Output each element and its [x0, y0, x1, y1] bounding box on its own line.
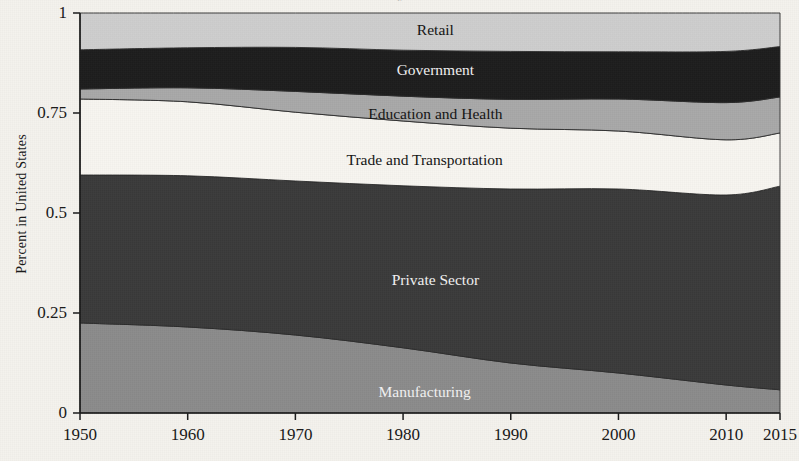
x-tick-label: 1950 — [40, 426, 120, 443]
area-band-retail — [80, 13, 780, 52]
x-tick-label: 1980 — [363, 426, 443, 443]
plot-canvas — [0, 0, 799, 461]
y-tick-label: 1 — [0, 4, 67, 21]
y-tick-label: 0.25 — [0, 304, 67, 321]
x-tick-label: 1960 — [148, 426, 228, 443]
x-tick-label: 2000 — [578, 426, 658, 443]
y-tick-label: 0.5 — [0, 204, 67, 221]
stacked-area-chart: y Percent in United States 00.250.50.751… — [0, 0, 799, 461]
x-tick-label: 1990 — [471, 426, 551, 443]
y-tick-label: 0.75 — [0, 104, 67, 121]
area-bands-group — [80, 13, 780, 413]
y-tick-label: 0 — [0, 404, 67, 421]
x-tick-label: 1970 — [255, 426, 335, 443]
x-tick-label: 2015 — [740, 426, 799, 443]
